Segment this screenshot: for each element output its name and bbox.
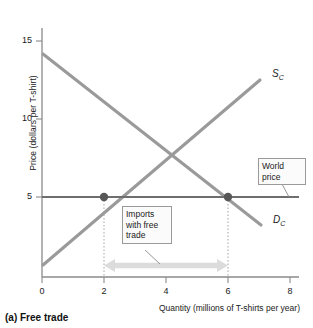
imports-callout: Imports with free trade	[122, 206, 172, 244]
imports-callout-line-3: trade	[126, 230, 168, 241]
imports-span-arrow	[104, 259, 228, 272]
world-price-callout: World price	[258, 158, 306, 185]
x-tick-label-4: 4	[155, 286, 177, 296]
imports-callout-line-1: Imports	[126, 209, 168, 220]
supply-curve-label: SC	[272, 68, 284, 81]
marker-q2-p5	[100, 193, 108, 201]
free-trade-chart-figure: 15 10 5 0 2 4 6 8 Price (dollars per T-s…	[0, 0, 313, 328]
x-tick-label-2: 2	[93, 286, 115, 296]
imports-leader	[145, 250, 160, 264]
supply-curve-label-letter: S	[272, 68, 279, 79]
marker-q6-p5	[224, 193, 232, 201]
demand-curve-label: DC	[273, 214, 285, 227]
supply-curve-label-sub: C	[279, 74, 284, 81]
x-tick-label-0: 0	[31, 286, 53, 296]
world-price-leader	[282, 184, 289, 197]
figure-caption: (a) Free trade	[5, 312, 68, 323]
y-axis-title: Price (dollars per T-shirt)	[28, 43, 38, 203]
x-tick-label-8: 8	[279, 286, 301, 296]
world-price-callout-text: World price	[262, 161, 284, 182]
x-tick-label-6: 6	[217, 286, 239, 296]
imports-callout-line-2: with free	[126, 220, 168, 231]
demand-curve-label-sub: C	[280, 220, 285, 227]
x-axis-title: Quantity (millions of T-shirts per year)	[42, 303, 300, 313]
